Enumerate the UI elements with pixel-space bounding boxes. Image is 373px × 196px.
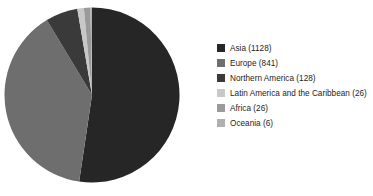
pie-chart-svg xyxy=(4,7,180,183)
legend-item[interactable]: Northern America (128) xyxy=(217,71,369,86)
legend-color-swatch xyxy=(217,74,225,82)
pie-chart-figure: Asia (1128)Europe (841)Northern America … xyxy=(0,0,373,196)
legend-item[interactable]: Oceania (6) xyxy=(217,116,369,131)
legend-item-label: Oceania (6) xyxy=(230,116,273,131)
legend-color-swatch xyxy=(217,104,225,112)
legend-item[interactable]: Europe (841) xyxy=(217,56,369,71)
pie-slice xyxy=(79,7,179,182)
legend-item-label: Northern America (128) xyxy=(230,71,316,86)
legend-color-swatch xyxy=(217,59,225,67)
chart-legend: Asia (1128)Europe (841)Northern America … xyxy=(217,41,369,131)
legend-color-swatch xyxy=(217,44,225,52)
legend-item[interactable]: Asia (1128) xyxy=(217,41,369,56)
legend-item-label: Latin America and the Caribbean (26) xyxy=(230,86,367,101)
legend-color-swatch xyxy=(217,119,225,127)
legend-color-swatch xyxy=(217,89,225,97)
pie-slice-group xyxy=(4,7,179,182)
pie-chart-plot-area xyxy=(4,7,180,183)
legend-item-label: Europe (841) xyxy=(230,56,278,71)
legend-item-label: Asia (1128) xyxy=(230,41,271,56)
legend-item[interactable]: Latin America and the Caribbean (26) xyxy=(217,86,369,101)
legend-item-label: Africa (26) xyxy=(230,101,268,116)
legend-item[interactable]: Africa (26) xyxy=(217,101,369,116)
